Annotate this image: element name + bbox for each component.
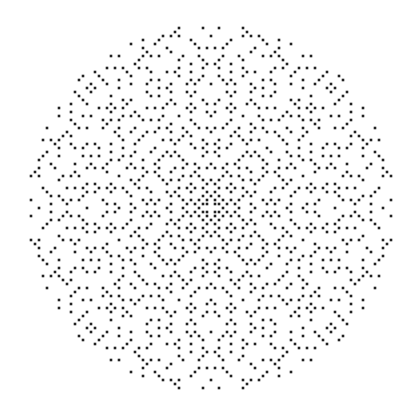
- dot-pattern-canvas: [0, 0, 412, 417]
- dot-pattern-figure: [0, 0, 412, 417]
